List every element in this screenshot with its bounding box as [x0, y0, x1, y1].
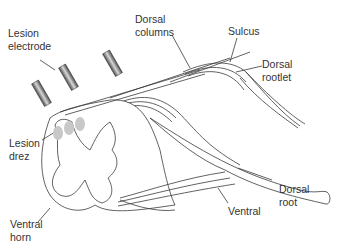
label-dorsal-rootlet: Dorsal rootlet [262, 58, 292, 83]
leader-dorsal-rootlet [236, 66, 262, 72]
leader-lesion-electrode [40, 60, 55, 70]
label-lesion-drez: Lesion drez [9, 137, 40, 162]
leader-ventral [218, 188, 228, 203]
label-lesion-electrode: Lesion electrode [8, 27, 51, 52]
label-ventral: Ventral [228, 205, 261, 218]
lesion-electrodes [32, 50, 123, 107]
label-sulcus: Sulcus [228, 25, 260, 38]
label-dorsal-columns: Dorsal columns [135, 13, 174, 38]
label-ventral-horn: Ventral horn [10, 218, 43, 243]
label-dorsal-root: Dorsal root [279, 183, 309, 208]
leader-dorsal-columns [172, 35, 190, 68]
